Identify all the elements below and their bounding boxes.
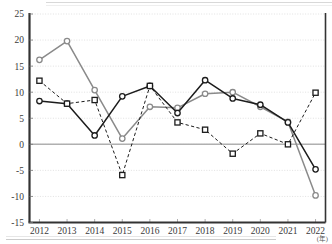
data-point-marker [202, 78, 207, 83]
data-point-marker [175, 120, 180, 125]
x-tick-label: 2021 [278, 226, 297, 236]
y-axis-tick-labels: 2520151050-5-10-15 [11, 9, 24, 228]
data-point-marker [64, 101, 69, 106]
data-point-marker [92, 133, 97, 138]
data-point-marker [147, 83, 152, 88]
data-point-marker [92, 87, 97, 92]
x-axis-unit-label: (年) [317, 234, 328, 243]
data-point-marker [230, 89, 235, 94]
footer-divider-secondary [6, 236, 276, 237]
series-series-black-square-dashed [37, 78, 318, 178]
data-point-marker [313, 193, 318, 198]
data-point-marker [230, 96, 235, 101]
x-tick-label: 2019 [223, 226, 242, 236]
y-tick-label: 15 [15, 62, 25, 72]
data-point-marker [175, 110, 180, 115]
x-tick-label: 2018 [196, 226, 215, 236]
data-point-marker [258, 131, 263, 136]
series-line [39, 81, 315, 175]
footer-divider-line [6, 239, 276, 240]
data-point-marker [120, 94, 125, 99]
data-point-marker [147, 104, 152, 109]
line-chart-svg: 2520151050-5-10-15 201220132014201520162… [0, 0, 332, 244]
y-tick-label: 20 [15, 35, 25, 45]
x-tick-label: 2017 [168, 226, 187, 236]
y-tick-label: 10 [15, 88, 25, 98]
chart-container: 2520151050-5-10-15 201220132014201520162… [0, 0, 332, 244]
data-point-marker [64, 38, 69, 43]
data-point-marker [37, 98, 42, 103]
plot-area-wrapper: 2520151050-5-10-15 201220132014201520162… [0, 0, 332, 244]
x-axis-tick-labels: 2012201320142015201620172018201920202021… [30, 226, 325, 236]
x-tick-label: 2016 [140, 226, 159, 236]
data-point-marker [37, 78, 42, 83]
data-point-marker [285, 142, 290, 147]
data-point-marker [120, 136, 125, 141]
data-point-marker [285, 120, 290, 125]
y-tick-label: -5 [16, 166, 24, 176]
data-point-marker [258, 102, 263, 107]
data-point-marker [203, 127, 208, 132]
x-tick-label: 2015 [113, 226, 132, 236]
data-point-marker [230, 151, 235, 156]
data-point-marker [313, 167, 318, 172]
data-point-marker [37, 57, 42, 62]
x-tick-label: 2014 [85, 226, 104, 236]
x-tick-label: 2012 [30, 226, 49, 236]
data-point-marker [120, 172, 125, 177]
data-point-marker [313, 90, 318, 95]
data-point-marker [202, 91, 207, 96]
y-tick-label: 25 [15, 9, 25, 19]
y-tick-label: 5 [19, 114, 24, 124]
y-tick-label: 0 [19, 140, 24, 150]
data-point-marker [92, 97, 97, 102]
x-tick-label: 2013 [58, 226, 77, 236]
data-series-group [37, 38, 319, 198]
y-tick-label: -15 [11, 218, 24, 228]
x-tick-label: 2020 [251, 226, 270, 236]
y-tick-label: -10 [11, 192, 24, 202]
